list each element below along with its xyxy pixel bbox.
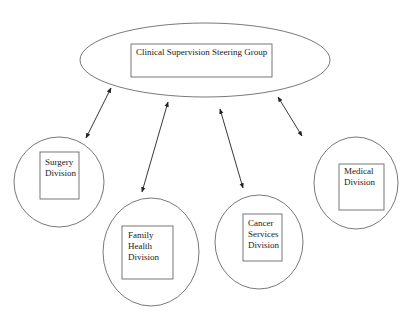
surgery-circle [14, 137, 104, 227]
arrow-hub-medical [278, 97, 302, 136]
arrow-hub-surgery [86, 88, 111, 138]
label-line: Health [128, 241, 159, 252]
label-line: Division [128, 252, 159, 263]
hub-ellipse [80, 23, 330, 97]
label-line: Family [128, 230, 159, 241]
label-line: Medical [344, 166, 375, 177]
label-line: Cancer [248, 218, 279, 229]
label-line: Surgery [45, 157, 76, 168]
label-line: Division [344, 177, 375, 188]
arrow-hub-family-health [142, 102, 168, 192]
label-line: Division [248, 240, 279, 251]
hub-label: Clinical Supervision Steering Group [136, 47, 267, 58]
medical-label: Medical Division [344, 166, 375, 188]
label-line: Services [248, 229, 279, 240]
cancer-services-label: Cancer Services Division [248, 218, 279, 251]
label-line: Division [45, 168, 76, 179]
surgery-label: Surgery Division [45, 157, 76, 179]
arrow-hub-cancer-services [220, 109, 243, 188]
family-health-label: Family Health Division [128, 230, 159, 263]
